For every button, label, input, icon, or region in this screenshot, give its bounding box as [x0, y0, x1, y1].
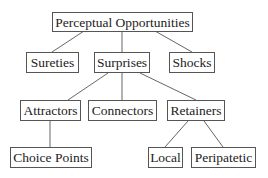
node-perceptual-opportunities: Perceptual Opportunities [52, 12, 193, 32]
node-connectors: Connectors [88, 100, 157, 121]
edge-retainers-local [165, 121, 188, 147]
node-sureties: Sureties [26, 52, 79, 73]
node-surprises: Surprises [94, 52, 150, 73]
edge-surprises-attractors [68, 73, 108, 100]
edge-root-sureties [52, 31, 84, 52]
edge-root-shocks [155, 31, 192, 52]
node-attractors: Attractors [20, 100, 81, 121]
node-retainers: Retainers [167, 100, 225, 121]
node-peripatetic: Peripatetic [191, 147, 256, 168]
edge-surprises-retainers [140, 73, 196, 100]
node-shocks: Shocks [169, 52, 215, 73]
node-choice-points: Choice Points [10, 147, 92, 168]
node-local: Local [148, 147, 183, 168]
edge-retainers-peripatetic [204, 121, 223, 147]
